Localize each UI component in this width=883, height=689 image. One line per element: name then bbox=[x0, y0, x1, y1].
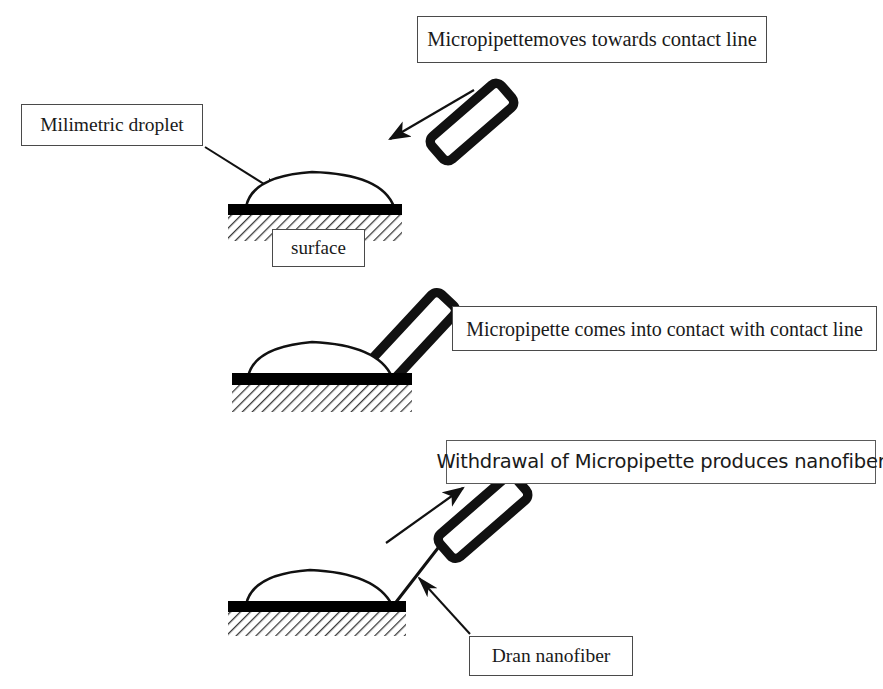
nanofiber-label-leader bbox=[419, 578, 470, 634]
droplet-dome-stage2 bbox=[248, 342, 392, 377]
stage-1-group bbox=[205, 81, 517, 241]
substrate-block-stage3 bbox=[228, 612, 406, 636]
surface-bar-stage1 bbox=[228, 204, 402, 215]
surface-bar-stage3 bbox=[228, 601, 406, 612]
micropipette-stage1 bbox=[427, 81, 516, 164]
figure-canvas: Micropipettemoves towards contact line M… bbox=[0, 0, 883, 689]
micropipette-stage3 bbox=[435, 473, 530, 561]
nanofiber-filament bbox=[393, 548, 438, 606]
stage-3-group bbox=[228, 473, 531, 636]
stage-2-group bbox=[232, 290, 458, 412]
droplet-dome-stage1 bbox=[246, 172, 394, 207]
surface-bar-stage2 bbox=[232, 373, 412, 385]
label-surface: surface bbox=[272, 229, 365, 267]
withdrawal-arrow bbox=[386, 488, 463, 543]
label-withdrawal: Withdrawal of Micropipette produces nano… bbox=[446, 440, 876, 484]
label-millimetric-droplet: Milimetric droplet bbox=[21, 104, 203, 146]
substrate-block-stage2 bbox=[232, 385, 412, 412]
droplet-dome-stage3 bbox=[246, 570, 392, 605]
label-pipette-contact: Micropipette comes into contact with con… bbox=[452, 306, 877, 351]
label-drawn-nanofiber: Dran nanofiber bbox=[469, 636, 633, 676]
label-pipette-approach: Micropipettemoves towards contact line bbox=[417, 16, 767, 63]
